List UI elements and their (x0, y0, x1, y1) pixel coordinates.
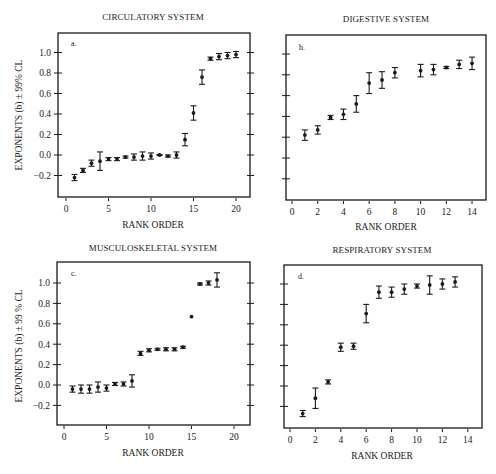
data-point (300, 410, 306, 416)
data-point (80, 168, 86, 172)
y-tick-label: −0.2 (34, 171, 51, 181)
data-point (363, 304, 369, 322)
y-tick-label: 1.0 (39, 48, 51, 58)
x-tick-label: 6 (367, 207, 372, 217)
panel-letter: a. (71, 39, 77, 48)
data-point (104, 385, 110, 391)
x-tick-label: 12 (438, 435, 448, 445)
marker (207, 281, 211, 285)
marker (115, 157, 119, 161)
marker (192, 111, 196, 115)
chart-title: MUSCULOSKELETAL SYSTEM (89, 243, 217, 253)
marker (149, 154, 153, 158)
data-point (366, 73, 372, 94)
data-point (328, 115, 334, 119)
marker (98, 159, 102, 163)
y-tick-label: 0.0 (39, 150, 51, 160)
panel-circulatory-system: CIRCULATORY SYSTEMa.−0.20.00.20.40.60.81… (14, 12, 254, 230)
data-point (129, 375, 135, 387)
data-point (340, 109, 346, 119)
data-point (414, 284, 420, 288)
data-point (106, 157, 112, 161)
panel-respiratory-system: RESPIRATORY SYSTEMd.02468101214RANK ORDE… (280, 245, 482, 461)
data-point (430, 64, 436, 74)
marker (198, 282, 202, 286)
marker (234, 53, 238, 57)
marker (183, 138, 187, 142)
data-point (157, 153, 163, 157)
marker (90, 161, 94, 165)
data-point (97, 152, 103, 170)
x-tick-label: 6 (364, 435, 369, 445)
marker (73, 176, 77, 180)
x-tick-label: 20 (231, 204, 241, 214)
marker (226, 54, 230, 58)
x-tick-label: 10 (146, 204, 156, 214)
x-tick-label: 14 (463, 435, 473, 445)
x-axis-label: RANK ORDER (122, 220, 184, 230)
data-point (190, 315, 194, 319)
marker (215, 278, 219, 282)
marker (419, 69, 423, 73)
data-point (197, 282, 203, 286)
x-tick-label: 8 (393, 207, 398, 217)
data-point (148, 153, 154, 159)
plot-frame (284, 265, 482, 428)
marker (200, 75, 204, 79)
data-point (89, 160, 95, 166)
data-point (351, 343, 357, 349)
data-point (439, 279, 445, 289)
x-tick-label: 14 (467, 207, 477, 217)
x-axis-label: RANK ORDER (122, 448, 184, 458)
data-point (140, 152, 146, 160)
data-point (379, 72, 385, 89)
marker (352, 344, 356, 348)
marker (156, 347, 160, 351)
y-tick-label: 0.6 (38, 319, 50, 329)
x-tick-label: 0 (288, 435, 293, 445)
marker (402, 287, 406, 291)
marker (415, 284, 419, 288)
x-tick-label: 12 (442, 207, 452, 217)
y-tick-label: 0.4 (38, 340, 50, 350)
x-tick-label: 10 (416, 207, 426, 217)
marker (158, 153, 162, 157)
panel-letter: c. (71, 269, 77, 278)
data-point (443, 66, 449, 70)
panel-digestive-system: DIGESTIVE SYSTEMb.02468101214RANK ORDER (282, 14, 486, 232)
marker (96, 385, 100, 389)
marker (88, 387, 92, 391)
x-tick-label: 15 (187, 432, 197, 442)
marker (339, 345, 343, 349)
data-point (174, 152, 180, 158)
x-axis-label: RANK ORDER (351, 451, 413, 461)
data-point (206, 281, 212, 285)
data-point (180, 345, 186, 349)
y-tick-label: 0.4 (39, 109, 51, 119)
data-point (131, 154, 137, 160)
data-point (315, 126, 321, 134)
y-tick-label: 0.2 (39, 130, 51, 140)
marker (432, 68, 436, 72)
y-tick-label: 1.0 (38, 278, 50, 288)
marker (217, 55, 221, 59)
data-point (208, 57, 214, 61)
marker (342, 112, 346, 116)
marker (470, 61, 474, 65)
data-point (70, 386, 76, 392)
marker (444, 66, 448, 70)
marker (190, 315, 194, 319)
marker (141, 154, 145, 158)
x-tick-label: 5 (104, 432, 109, 442)
x-tick-label: 0 (62, 432, 67, 442)
marker (132, 155, 136, 159)
marker (164, 347, 168, 351)
data-point (418, 64, 424, 76)
marker (79, 387, 83, 391)
x-tick-label: 4 (341, 207, 346, 217)
data-point (165, 154, 171, 158)
data-point (353, 96, 359, 113)
data-point (78, 385, 84, 393)
y-tick-label: 0.6 (39, 89, 51, 99)
data-point (112, 382, 118, 386)
